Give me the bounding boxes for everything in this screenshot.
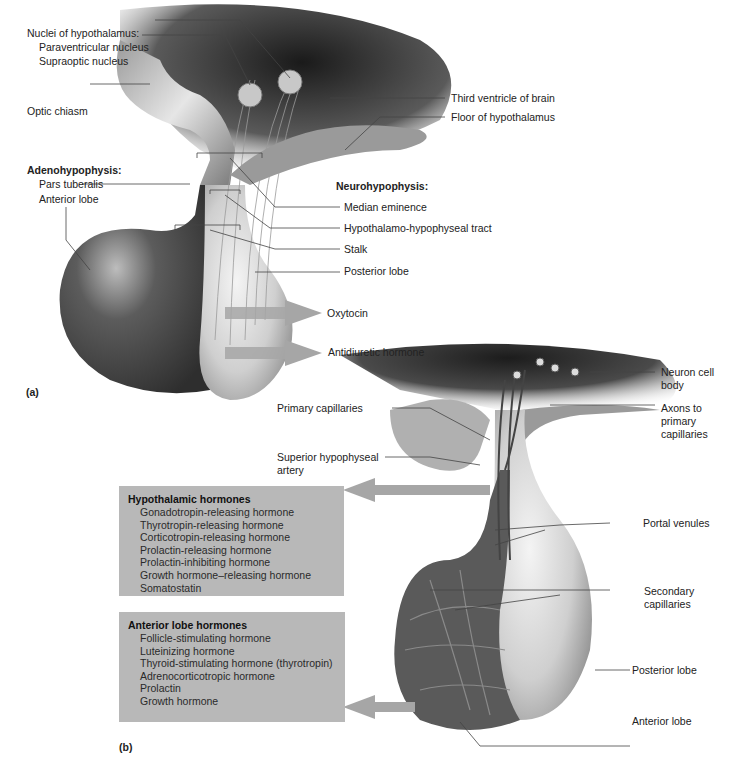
hormone-item: Prolactin: [128, 682, 336, 695]
label-median-eminence: Median eminence: [344, 201, 427, 214]
panel-a-letter: (a): [26, 386, 39, 398]
neurohypophysis-heading: Neurohypophysis:: [336, 180, 428, 193]
hypothalamic-hormones-box: Hypothalamic hormones Gonadotropin-relea…: [119, 486, 344, 596]
panel-b-illustration: [340, 344, 676, 746]
hormone-item: Somatostatin: [128, 582, 335, 595]
hypothalamic-hormones-title: Hypothalamic hormones: [128, 492, 335, 506]
anterior-lobe-hormones-box: Anterior lobe hormones Follicle-stimulat…: [119, 612, 345, 722]
label-paraventricular-nucleus: Paraventricular nucleus: [39, 41, 149, 54]
label-stalk: Stalk: [344, 243, 367, 256]
label-antidiuretic-hormone: Antidiuretic hormone: [328, 346, 424, 359]
anterior-lobe-hormones-title: Anterior lobe hormones: [128, 618, 336, 632]
label-posterior-lobe-b: Posterior lobe: [632, 664, 697, 677]
hormone-item: Prolactin-inhibiting hormone: [128, 556, 335, 569]
label-secondary-capillaries: Secondary capillaries: [644, 585, 704, 611]
label-floor-hypothalamus: Floor of hypothalamus: [451, 111, 555, 124]
hormone-item: Thyrotropin-releasing hormone: [128, 519, 335, 532]
label-superior-hypophyseal-artery: Superior hypophyseal artery: [277, 451, 387, 477]
nuclei-heading: Nuclei of hypothalamus:: [27, 27, 139, 40]
label-neuron-cell-body: Neuron cell body: [661, 366, 727, 392]
label-portal-venules: Portal venules: [643, 517, 710, 530]
label-posterior-lobe-a: Posterior lobe: [344, 265, 409, 278]
label-primary-capillaries: Primary capillaries: [277, 402, 363, 415]
hormone-item: Gonadotropin-releasing hormone: [128, 506, 335, 519]
hormone-item: Corticotropin-releasing hormone: [128, 531, 335, 544]
hormone-item: Prolactin-releasing hormone: [128, 544, 335, 557]
label-pars-tuberalis: Pars tuberalis: [39, 178, 103, 191]
label-axons-to-primary-capillaries: Axons to primary capillaries: [661, 402, 721, 441]
label-oxytocin: Oxytocin: [327, 307, 368, 320]
hormone-item: Luteinizing hormone: [128, 645, 336, 658]
hormone-item: Growth hormone: [128, 695, 336, 708]
label-anterior-lobe-a: Anterior lobe: [39, 193, 99, 206]
label-anterior-lobe-b: Anterior lobe: [632, 715, 692, 728]
hormone-item: Adrenocorticotropic hormone: [128, 670, 336, 683]
hormone-item: Growth hormone–releasing hormone: [128, 569, 335, 582]
hormone-item: Follicle-stimulating hormone: [128, 632, 336, 645]
hormone-item: Thyroid-stimulating hormone (thyrotropin…: [128, 657, 336, 670]
label-third-ventricle: Third ventricle of brain: [451, 92, 555, 105]
label-hypothalamo-hypophyseal-tract: Hypothalamo-hypophyseal tract: [344, 222, 492, 235]
panel-b-letter: (b): [119, 741, 132, 753]
pituitary-illustration: [0, 0, 731, 766]
label-optic-chiasm: Optic chiasm: [27, 105, 88, 118]
label-supraoptic-nucleus: Supraoptic nucleus: [39, 55, 128, 68]
adenohypophysis-heading: Adenohypophysis:: [27, 164, 122, 177]
